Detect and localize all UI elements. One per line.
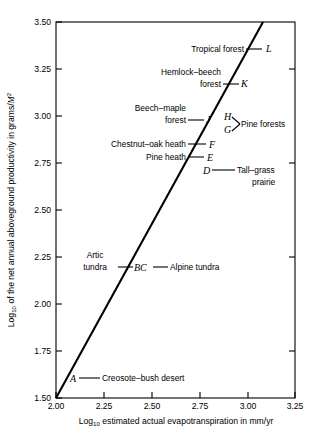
y-axis-title-sup: 2 — [5, 92, 12, 96]
point-id-A: A — [69, 373, 77, 384]
x-axis-title: Log10 estimated actual evapotranspiratio… — [79, 416, 274, 427]
point-id-J: J — [206, 114, 211, 125]
label-pine-forests: Pine forests — [241, 119, 285, 129]
y-tick-label: 2.75 — [34, 158, 51, 168]
point-id-G: G — [224, 124, 231, 135]
label-tropical-forest: Tropical forest — [191, 44, 244, 54]
point-id-H: H — [223, 111, 232, 122]
label-alpine-tundra: Alpine tundra — [170, 262, 220, 272]
y-tick-label: 3.00 — [34, 111, 51, 121]
y-tick-label: 3.50 — [34, 17, 51, 27]
svg-text:Log10 of the net annual aboveg: Log10 of the net annual aboveground prod… — [5, 92, 17, 327]
point-id-BC: BC — [134, 262, 147, 273]
point-id-D: D — [202, 165, 211, 176]
x-tick-label: 2.75 — [192, 401, 209, 411]
point-id-L: L — [265, 43, 272, 54]
label-chestnut-oak-heath: Chestnut–oak heath — [111, 139, 186, 149]
label-beech-maple-line2: forest — [165, 115, 187, 125]
x-tick-label: 2.00 — [48, 401, 65, 411]
x-tick-label: 2.50 — [144, 401, 161, 411]
label-tall-grass-line2: prairie — [252, 177, 276, 187]
x-tick-label: 3.00 — [240, 401, 257, 411]
x-axis-title-rest: estimated actual evapotranspiration in m… — [100, 416, 274, 426]
y-tick-label: 2.00 — [34, 299, 51, 309]
point-id-E: E — [206, 152, 213, 163]
y-tick-label: 2.50 — [34, 205, 51, 215]
label-creosote-bush-desert: Creosote–bush desert — [102, 373, 185, 383]
label-artic-line1: Artic — [87, 250, 104, 260]
label-pine-heath: Pine heath — [146, 152, 186, 162]
point-id-K: K — [240, 78, 249, 89]
y-tick-label: 1.75 — [34, 346, 51, 356]
label-artic-line2: tundra — [83, 262, 107, 272]
x-tick-label: 3.25 — [287, 401, 304, 411]
y-axis-title: Log10 of the net annual aboveground prod… — [5, 92, 17, 327]
y-axis-title-rest: of the net annual aboveground productivi… — [6, 103, 16, 306]
y-tick-label: 3.25 — [34, 64, 51, 74]
chart-figure: 1.50 1.75 2.00 2.25 2.50 2.75 3.00 3.25 … — [0, 0, 313, 438]
svg-text:Log10 estimated actual evapotr: Log10 estimated actual evapotranspiratio… — [79, 416, 274, 427]
label-hemlock-beech-line1: Hemlock–beech — [161, 67, 221, 77]
x-axis-log-word: Log — [79, 416, 94, 426]
point-id-F: F — [208, 139, 216, 150]
y-axis-log-word: Log — [6, 313, 16, 328]
label-beech-maple-line1: Beech–maple — [135, 103, 187, 113]
y-tick-label: 2.25 — [34, 252, 51, 262]
label-tall-grass-line1: Tall–grass — [237, 165, 275, 175]
label-hemlock-beech-line2: forest — [200, 79, 222, 89]
x-tick-label: 2.25 — [96, 401, 113, 411]
